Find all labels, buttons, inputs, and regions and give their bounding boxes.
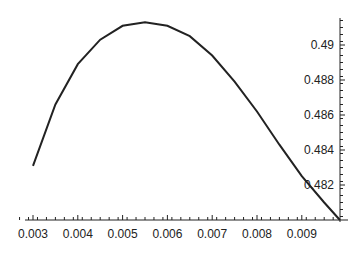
x-tick-label: 0.008: [242, 227, 272, 241]
x-tick-label: 0.009: [287, 227, 317, 241]
x-axis: 0.0030.0040.0050.0060.0070.0080.009: [18, 215, 348, 241]
y-tick-label: 0.488: [304, 73, 334, 87]
x-tick-label: 0.005: [108, 227, 138, 241]
y-tick-label: 0.486: [304, 108, 334, 122]
data-curve: [33, 22, 340, 220]
x-tick-label: 0.003: [18, 227, 48, 241]
x-tick-label: 0.004: [63, 227, 93, 241]
x-tick-label: 0.006: [152, 227, 182, 241]
line-chart: 0.0030.0040.0050.0060.0070.0080.009 0.48…: [0, 0, 360, 256]
y-axis: 0.4820.4840.4860.4880.49: [304, 18, 345, 222]
y-tick-label: 0.484: [304, 143, 334, 157]
x-tick-label: 0.007: [197, 227, 227, 241]
y-tick-label: 0.49: [311, 38, 335, 52]
